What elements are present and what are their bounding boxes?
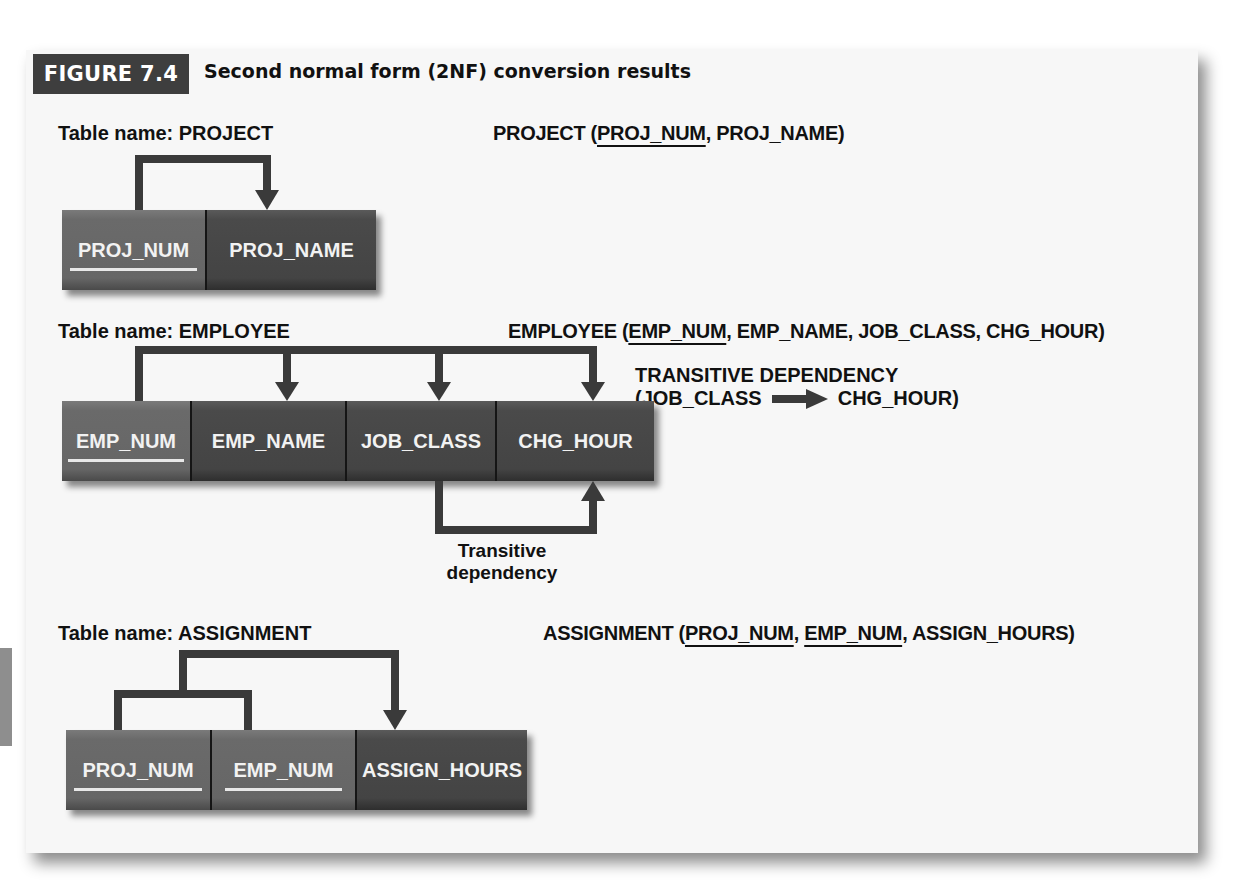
column-emp-num: EMP_NUM [62,401,192,481]
schema-name: ASSIGNMENT ( [543,622,685,644]
column-chg-hour: CHG_HOUR [497,401,654,481]
employee-schema: EMPLOYEE (EMP_NUM, EMP_NAME, JOB_CLASS, … [508,320,1105,343]
schema-rest: , ASSIGN_HOURS) [902,622,1075,644]
project-schema: PROJECT (PROJ_NUM, PROJ_NAME) [493,122,844,145]
schema-rest: , PROJ_NAME) [706,122,845,144]
figure-badge: FIGURE 7.4 [33,54,189,94]
assignment-table-label: Table name: ASSIGNMENT [58,622,311,645]
schema-key: EMP_NUM [804,622,902,644]
column-emp-num: EMP_NUM [212,730,357,810]
schema-name: PROJECT ( [493,122,597,144]
schema-key: EMP_NUM [628,320,726,342]
column-assign-hours: ASSIGN_HOURS [357,730,527,810]
assignment-schema: ASSIGNMENT (PROJ_NUM, EMP_NUM, ASSIGN_HO… [543,622,1075,645]
column-proj-num: PROJ_NUM [62,210,207,290]
column-job-class: JOB_CLASS [347,401,497,481]
schema-key: PROJ_NUM [685,622,794,644]
schema-key: PROJ_NUM [597,122,706,144]
employee-table-label: Table name: EMPLOYEE [58,320,290,343]
transitive-dependency-heading: TRANSITIVE DEPENDENCY (JOB_CLASS CHG_HOU… [635,364,959,410]
assignment-table: PROJ_NUM EMP_NUM ASSIGN_HOURS [66,730,527,810]
schema-rest: , EMP_NAME, JOB_CLASS, CHG_HOUR) [726,320,1104,342]
schema-name: EMPLOYEE ( [508,320,628,342]
employee-table: EMP_NUM EMP_NAME JOB_CLASS CHG_HOUR [62,401,654,481]
column-proj-num: PROJ_NUM [66,730,212,810]
column-proj-name: PROJ_NAME [207,210,376,290]
column-emp-name: EMP_NAME [192,401,347,481]
transitive-dependency-note: Transitive dependency [432,540,572,584]
figure-title: Second normal form (2NF) conversion resu… [204,60,691,82]
project-table-label: Table name: PROJECT [58,122,273,145]
chapter-tab [0,648,12,746]
right-arrow-icon [770,388,830,410]
project-table: PROJ_NUM PROJ_NAME [62,210,376,290]
